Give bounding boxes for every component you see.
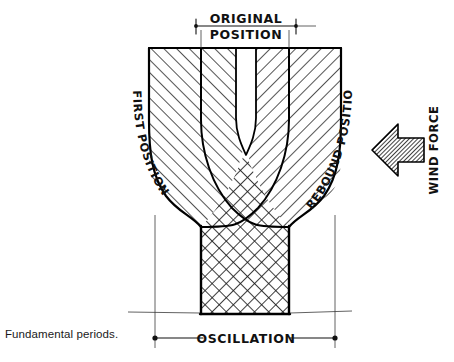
original-position-label-line2: POSITION bbox=[210, 27, 283, 42]
original-position-dimension: ORIGINAL POSITION bbox=[194, 11, 316, 48]
oscillation-label: OSCILLATION bbox=[197, 331, 296, 346]
wind-force-arrow bbox=[372, 124, 424, 176]
figure-caption: Fundamental periods. bbox=[5, 328, 118, 340]
wind-force-label: WIND FORCE bbox=[427, 106, 441, 195]
fundamental-periods-diagram: ORIGINAL POSITION FIRST POSITION REBOUND… bbox=[0, 0, 454, 362]
wind-force-label-group: WIND FORCE bbox=[427, 106, 441, 195]
column-shaft bbox=[201, 226, 289, 314]
original-position-label-line1: ORIGINAL bbox=[210, 11, 283, 26]
